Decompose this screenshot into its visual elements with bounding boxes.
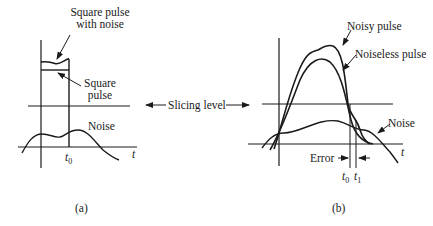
label-t1-b-sub: 1 bbox=[357, 176, 361, 185]
label-square-pulse-with-noise: Square pulse with noise bbox=[60, 6, 140, 30]
noisy-pulse-pointer-a bbox=[57, 35, 70, 59]
label-square-pulse: Square pulse bbox=[79, 77, 121, 101]
label-noise-a: Noise bbox=[88, 120, 115, 132]
label-square-pulse-line1: Square bbox=[79, 77, 121, 89]
caption-b: (b) bbox=[332, 202, 345, 214]
label-t0-a: t0 bbox=[65, 151, 72, 168]
label-square-pulse-with-noise-line2: with noise bbox=[60, 18, 140, 30]
label-noiseless-pulse: Noiseless pulse bbox=[355, 48, 426, 60]
label-t-axis-b: t bbox=[401, 146, 404, 158]
noisy-pulse-pointer-b bbox=[343, 30, 351, 45]
square-pulse-noisy-top bbox=[41, 59, 69, 64]
label-noisy-pulse: Noisy pulse bbox=[347, 20, 402, 32]
caption-a: (a) bbox=[75, 202, 88, 214]
label-t-axis-a: t bbox=[132, 148, 135, 160]
diagram-canvas bbox=[0, 0, 433, 226]
label-slicing-level: Slicing level bbox=[168, 99, 226, 111]
label-t0-a-sub: 0 bbox=[68, 157, 72, 166]
panel-a-plot bbox=[18, 35, 137, 168]
label-square-pulse-line2: pulse bbox=[79, 89, 121, 101]
label-square-pulse-with-noise-line1: Square pulse bbox=[60, 6, 140, 18]
label-error: Error bbox=[310, 152, 334, 164]
label-t0-b: t0 bbox=[342, 170, 349, 187]
label-t1-b: t1 bbox=[354, 170, 361, 187]
label-noise-b: Noise bbox=[388, 117, 415, 129]
label-t0-b-sub: 0 bbox=[345, 176, 349, 185]
